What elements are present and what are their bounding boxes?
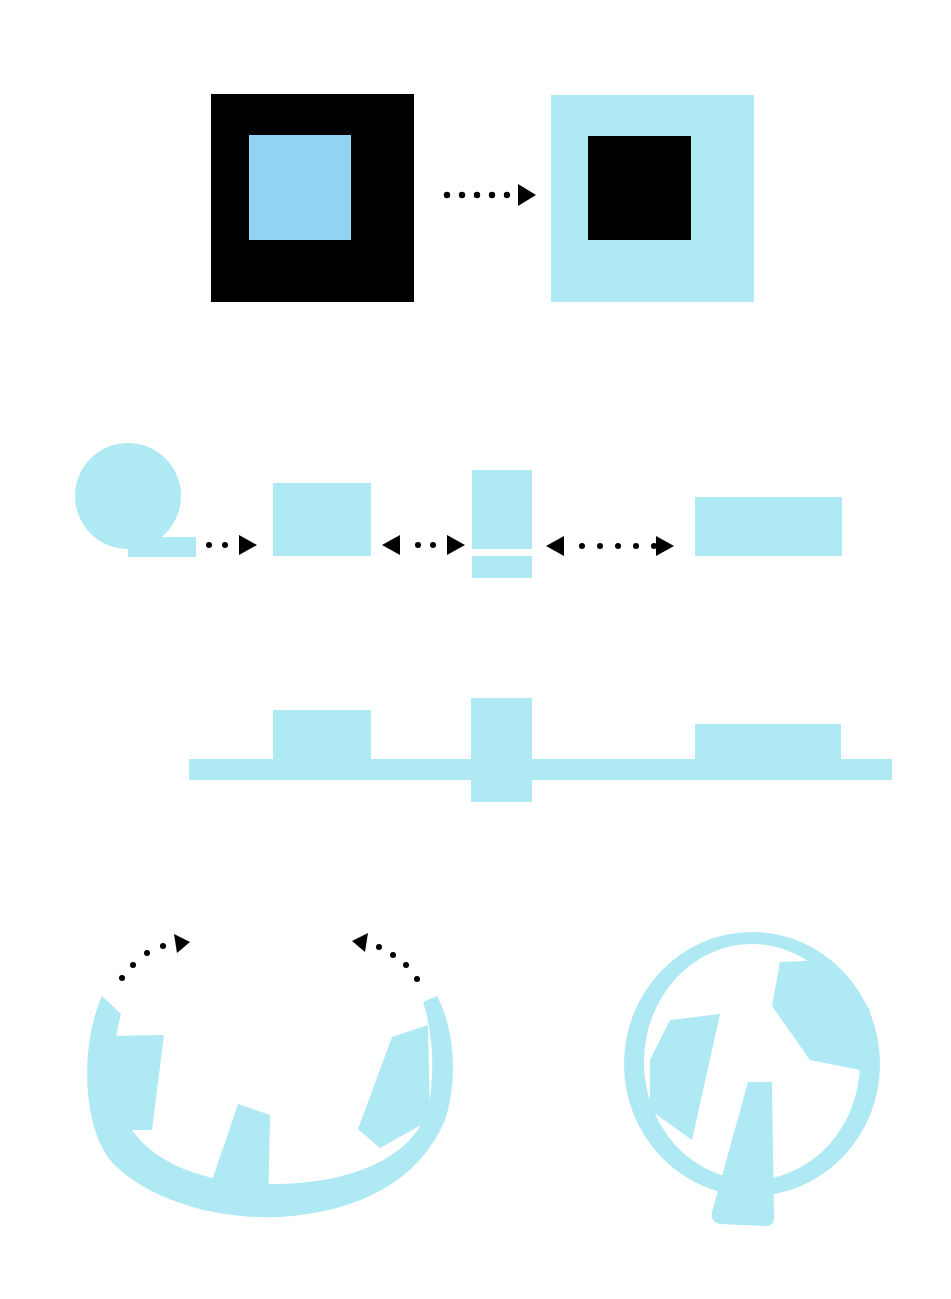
rectangle — [273, 483, 371, 556]
circle-with-tail — [70, 440, 200, 560]
wide-rectangle — [695, 497, 842, 556]
closed-circle-shape — [620, 930, 890, 1230]
cyan-square-with-black-center — [551, 95, 754, 302]
open-arc-shape — [80, 920, 460, 1230]
split-bar-top — [472, 470, 532, 549]
block-right — [695, 724, 841, 760]
black-square-with-blue-center — [211, 94, 414, 302]
block-left — [273, 710, 371, 760]
arrow-right-icon — [440, 180, 540, 210]
bidirectional-arrow-icon — [542, 533, 677, 559]
block-center-crossing — [471, 698, 532, 802]
bidirectional-arrow-icon — [380, 532, 470, 558]
arrow-right-icon — [200, 532, 265, 558]
black-inner-square — [588, 136, 691, 240]
blue-inner-square — [249, 135, 351, 240]
horizontal-bar — [189, 759, 892, 780]
diagram-canvas: Shape transformation diagram — [0, 0, 951, 1299]
split-bar-bottom — [472, 556, 532, 578]
